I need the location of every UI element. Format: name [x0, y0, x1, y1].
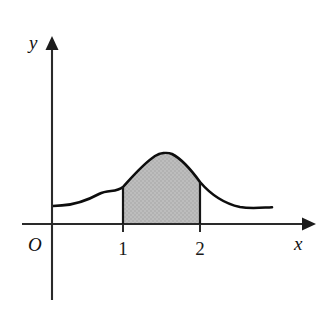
x-axis-label: x — [293, 233, 303, 254]
tick-label-1: 1 — [118, 238, 128, 259]
tick-label-2: 2 — [195, 238, 205, 259]
figure-canvas: y x O 1 2 — [0, 0, 331, 313]
y-axis-arrow-icon — [46, 36, 59, 50]
origin-label: O — [28, 234, 42, 255]
y-axis-label: y — [27, 32, 38, 53]
shaded-area-region — [123, 153, 200, 224]
x-axis-arrow-icon — [302, 218, 316, 231]
area-under-curve-chart: y x O 1 2 — [0, 0, 331, 313]
